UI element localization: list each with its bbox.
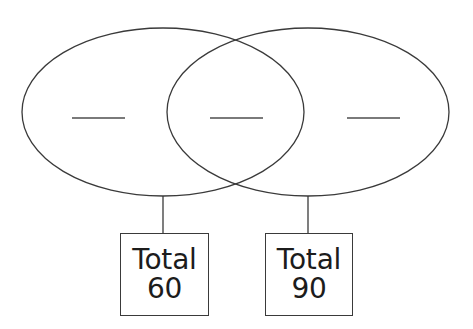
venn-diagram-canvas (0, 0, 473, 329)
right-total-value: 90 (291, 275, 326, 304)
left-total-label: Total (132, 246, 196, 275)
right-set-ellipse (167, 28, 449, 196)
venn-diagram-worksheet: Total 60 Total 90 (0, 0, 473, 329)
left-set-ellipse (22, 28, 304, 196)
left-total-box: Total 60 (120, 233, 209, 316)
right-total-box: Total 90 (265, 233, 353, 316)
left-total-value: 60 (147, 275, 182, 304)
right-total-label: Total (277, 246, 341, 275)
